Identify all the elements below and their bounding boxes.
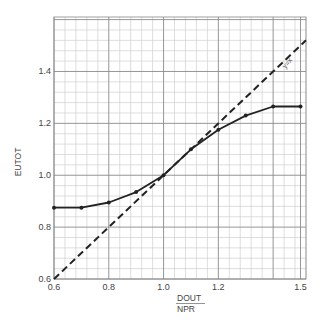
x-axis-tick-labels: 0.60.81.01.21.5 — [48, 282, 307, 292]
major-gridlines — [54, 17, 306, 279]
y-axis-tick-labels: 0.60.81.01.21.4 — [38, 66, 51, 284]
data-point-marker — [244, 114, 248, 118]
data-point-marker — [52, 206, 56, 210]
y-tick-label: 1.0 — [38, 170, 51, 180]
data-point-marker — [271, 104, 275, 108]
data-point-marker — [162, 173, 166, 177]
plot-frame — [54, 17, 306, 279]
x-tick-label: 1.0 — [157, 282, 170, 292]
x-axis-label-numerator: DOUT — [177, 293, 201, 303]
y-tick-label: 0.8 — [38, 222, 51, 232]
data-point-marker — [216, 128, 220, 132]
data-point-marker — [299, 104, 303, 108]
eutot-curve — [54, 107, 301, 208]
eutot-vs-dout-npr-chart: 0.60.81.01.21.5 0.60.81.01.21.4 EUTOT DO… — [0, 0, 323, 326]
y-equals-x-annotation: y=x — [281, 56, 295, 70]
y-tick-label: 1.2 — [38, 118, 51, 128]
minor-gridlines — [54, 17, 306, 279]
x-axis-label-denominator: NPR — [177, 304, 195, 314]
y-tick-label: 1.4 — [38, 66, 51, 76]
y-axis-label: EUTOT — [13, 148, 23, 177]
x-tick-label: 1.2 — [212, 282, 225, 292]
x-tick-label: 1.5 — [294, 282, 307, 292]
y-tick-label: 0.6 — [38, 274, 51, 284]
eutot-series-line — [52, 104, 303, 209]
x-tick-label: 0.8 — [103, 282, 116, 292]
data-point-marker — [107, 200, 111, 204]
data-point-marker — [189, 147, 193, 151]
data-point-marker — [134, 190, 138, 194]
data-point-marker — [79, 206, 83, 210]
